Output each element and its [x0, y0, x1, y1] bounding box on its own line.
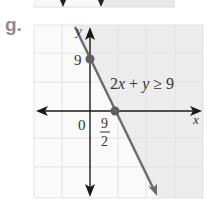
x-intercept-numerator: 9 [101, 116, 108, 131]
graph-canvas: y x 9 0 9 2 2x + y ≥ 9 [0, 0, 207, 222]
graph-g: y x 9 0 9 2 2x + y ≥ 9 [34, 23, 203, 198]
point-y-intercept [86, 55, 95, 64]
y-intercept-label: 9 [74, 52, 82, 68]
inequality-label: 2x + y ≥ 9 [110, 75, 174, 93]
problem-label: g. [5, 14, 22, 36]
y-axis-label: y [74, 23, 82, 38]
previous-graph-fragment [33, 0, 175, 7]
point-x-intercept [111, 107, 120, 116]
x-axis-label: x [192, 112, 199, 127]
origin-label: 0 [78, 117, 86, 133]
x-intercept-denominator: 2 [101, 134, 108, 149]
